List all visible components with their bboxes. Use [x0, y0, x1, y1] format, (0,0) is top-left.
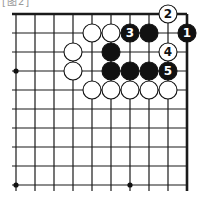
move-number-label: 3: [126, 26, 134, 40]
black-stone: [140, 62, 158, 80]
black-stone: [102, 62, 120, 80]
move-number-label: 5: [164, 64, 172, 78]
move-number-label: 2: [164, 7, 172, 21]
move-number-label: 4: [164, 45, 172, 59]
black-stone-1: 1: [178, 24, 196, 42]
white-stone: [83, 24, 101, 42]
star-point: [127, 182, 132, 187]
white-stone: [83, 81, 101, 99]
white-stone: [140, 81, 158, 99]
black-stone: [102, 43, 120, 61]
black-stone-3: 3: [121, 24, 139, 42]
white-stone-4: 4: [159, 43, 177, 61]
go-board: 12345: [0, 0, 201, 207]
black-stone: [140, 24, 158, 42]
black-stone-5: 5: [159, 62, 177, 80]
move-number-label: 1: [183, 26, 191, 40]
white-stone: [121, 81, 139, 99]
board-grid: [12, 14, 187, 191]
star-point: [13, 182, 18, 187]
white-stone-2: 2: [159, 5, 177, 23]
black-stone: [121, 62, 139, 80]
white-stone: [102, 81, 120, 99]
white-stone: [64, 62, 82, 80]
white-stone: [159, 81, 177, 99]
star-point: [13, 68, 18, 73]
white-stone: [64, 43, 82, 61]
white-stone: [102, 24, 120, 42]
